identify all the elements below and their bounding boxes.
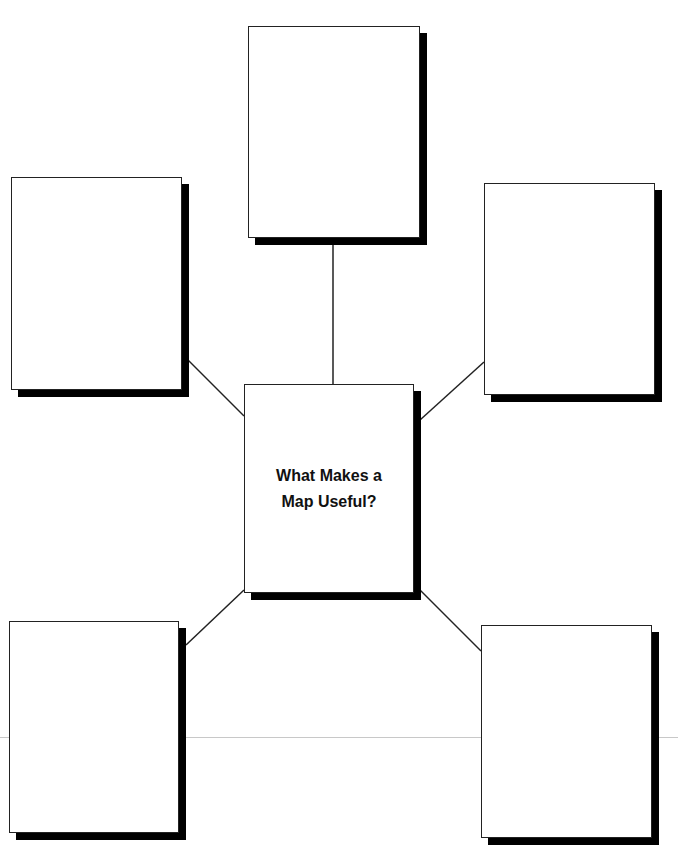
box-top-left: [11, 177, 182, 390]
connector-top-right: [420, 362, 484, 420]
box-top: [248, 26, 420, 238]
box-bottom-left: [9, 621, 179, 833]
center-title: What Makes a Map Useful?: [245, 463, 413, 515]
connector-top-left: [188, 360, 244, 416]
box-top-right: [484, 183, 655, 395]
connector-bottom-left: [186, 590, 244, 645]
center-title-line2: Map Useful?: [245, 489, 413, 515]
connector-bottom-right: [420, 590, 481, 651]
box-bottom-right: [481, 625, 652, 838]
box-center: What Makes a Map Useful?: [244, 384, 414, 593]
center-title-line1: What Makes a: [245, 463, 413, 489]
